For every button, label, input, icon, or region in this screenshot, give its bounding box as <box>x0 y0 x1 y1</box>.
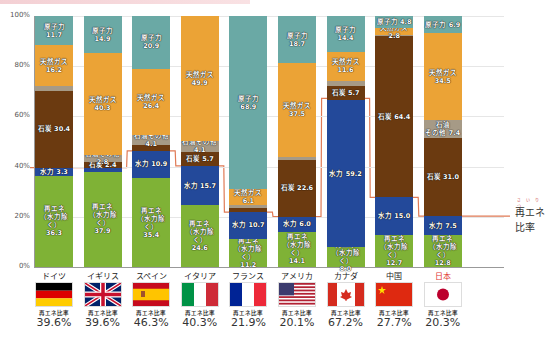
segment-label: 原子力 20.9 <box>132 34 170 50</box>
segment-label: 再エネ （水力除く） 14.1 <box>278 233 316 265</box>
bar-segment: 石油その他 2.8 <box>84 155 122 162</box>
segment-label: 水力 15.7 <box>184 182 216 190</box>
bar-3: 再エネ （水力除く） 24.6水力 15.7石炭 5.7石油その他 4.1天然ガ… <box>181 16 219 267</box>
bar-6: 再エネ （水力除く） 8.0水力 59.2石炭 5.7天然ガス 11.6原子力 … <box>327 16 365 267</box>
segment-label: 再エネ （水力除く） 12.8 <box>424 235 462 267</box>
bar-segment: 水力 7.5 <box>424 216 462 235</box>
segment-label: 原子力 14.4 <box>327 26 365 42</box>
segment-label: 天然ガス 6.1 <box>229 189 267 205</box>
segment-label: 石炭 30.4 <box>38 125 70 133</box>
segment-label: 原子力 11.7 <box>35 23 73 39</box>
segment-label: 水力 10.7 <box>232 221 264 229</box>
segment-label: 再エネ （水力除く） 36.3 <box>35 205 73 237</box>
bar-segment: 水力 10.9 <box>132 151 170 178</box>
segment-label: 水力 7.5 <box>429 222 457 230</box>
flag-china-icon <box>375 282 413 307</box>
bar-segment: 再エネ （水力除く） 36.3 <box>35 176 73 267</box>
segment-label: 再エネ （水力除く） 35.4 <box>132 207 170 239</box>
segment-label: 水力 6.0 <box>283 220 311 228</box>
bar-segment: 再エネ （水力除く） 37.9 <box>84 172 122 267</box>
flag-uk-icon <box>84 282 122 307</box>
bar-segment: 石油その他 4.1 <box>132 135 170 145</box>
segment-label: 石炭 5.7 <box>332 89 360 97</box>
segment-label: 天然ガス 34.5 <box>429 69 457 85</box>
bar-segment: 水力 3.3 <box>35 168 73 176</box>
legend-label-renewable-ratio: 再エネ比率 <box>515 204 545 234</box>
y-tick-label: 100% <box>0 11 30 19</box>
y-tick-label: 20% <box>0 212 30 220</box>
segment-label: 天然ガス 37.5 <box>283 102 311 118</box>
bar-segment: 天然ガス 16.2 <box>35 45 73 86</box>
segment-label: 再エネ （水力除く） 37.9 <box>84 203 122 235</box>
flag-usa-icon <box>278 282 316 307</box>
bar-4: 再エネ （水力除く） 11.2水力 10.7天然ガス 6.1原子力 68.9 <box>229 16 267 267</box>
segment-label: 石油 その他 7.4 <box>425 121 460 137</box>
segment-label: 再エネ （水力除く） 12.7 <box>375 235 413 267</box>
segment-label: 再エネ （水力除く） 11.2 <box>229 237 267 269</box>
segment-label: 再エネ （水力除く） 24.6 <box>181 220 219 252</box>
title-caption-bar <box>0 0 250 4</box>
flag-italy-icon <box>181 282 219 307</box>
y-tick-label: 60% <box>0 111 30 119</box>
bar-segment <box>278 157 316 160</box>
segment-label: 天然ガス 40.3 <box>89 96 117 112</box>
segment-label: 石炭 22.6 <box>281 184 313 192</box>
x-axis <box>34 267 504 268</box>
bar-segment: 水力 15.0 <box>375 197 413 235</box>
flag-japan-icon <box>424 282 462 307</box>
segment-label: 水力 3.3 <box>40 168 68 176</box>
bar-segment: 天然ガス 34.5 <box>424 33 462 120</box>
bar-segment: 原子力 14.9 <box>84 16 122 53</box>
bar-segment: 天然ガス 2.8 <box>375 28 413 35</box>
flag-france-icon <box>229 282 267 307</box>
bar-segment: 石油 その他 7.4 <box>424 120 462 139</box>
segment-label: 水力 15.0 <box>378 212 410 220</box>
flag-canada-icon <box>327 282 365 307</box>
flag-spain-icon <box>132 282 170 307</box>
bar-segment: 再エネ （水力除く） 24.6 <box>181 205 219 267</box>
y-tick-label: 0% <box>0 262 30 270</box>
bar-segment <box>229 205 267 209</box>
segment-label: 水力 10.9 <box>135 160 167 168</box>
bar-segment: 石炭 64.4 <box>375 36 413 198</box>
bar-segment: 再エネ （水力除く） 11.2 <box>229 239 267 267</box>
bar-segment: 石炭 22.6 <box>278 160 316 217</box>
bar-5: 再エネ （水力除く） 14.1水力 6.0石炭 22.6天然ガス 37.5原子力… <box>278 16 316 267</box>
segment-label: 天然ガス 16.2 <box>40 58 68 74</box>
bar-segment: 天然ガス 40.3 <box>84 53 122 154</box>
bar-segment: 再エネ （水力除く） 12.7 <box>375 235 413 267</box>
segment-label: 石炭 31.0 <box>427 173 459 181</box>
renewable-ratio-line <box>0 0 545 337</box>
bar-segment: 天然ガス 6.1 <box>229 189 267 204</box>
bar-segment: 再エネ （水力除く） 8.0 <box>327 247 365 267</box>
bar-segment: 水力 10.7 <box>229 212 267 239</box>
bar-segment: 原子力 11.7 <box>35 16 73 45</box>
bar-segment <box>229 208 267 212</box>
segment-label: 原子力 68.9 <box>229 95 267 111</box>
segment-label: 石炭 5.7 <box>186 155 214 163</box>
bar-segment: 水力 6.0 <box>278 217 316 232</box>
segment-label: 天然ガス 26.4 <box>137 94 165 110</box>
bar-segment: 水力 15.7 <box>181 166 219 205</box>
segment-label: 天然ガス 49.9 <box>186 71 214 87</box>
bar-7: 再エネ （水力除く） 12.7水力 15.0石炭 64.4天然ガス 2.8原子力… <box>375 16 413 267</box>
bar-segment: 原子力 20.9 <box>132 16 170 69</box>
bar-segment: 石炭 5.7 <box>327 86 365 100</box>
bar-segment: 天然ガス 37.5 <box>278 63 316 157</box>
bar-segment: 天然ガス 26.4 <box>132 69 170 135</box>
ratio-value: 20.3% <box>413 316 473 329</box>
segment-label: 原子力 14.9 <box>84 27 122 43</box>
bar-segment <box>35 86 73 91</box>
bar-segment: 天然ガス 11.6 <box>327 52 365 81</box>
bar-segment: 天然ガス 49.9 <box>181 16 219 141</box>
y-tick-label: 40% <box>0 162 30 170</box>
bar-segment: 水力 59.2 <box>327 100 365 247</box>
segment-label: 天然ガス 11.6 <box>332 58 360 74</box>
segment-label: 原子力 6.9 <box>425 21 460 29</box>
bar-segment: 石炭 31.0 <box>424 138 462 216</box>
bar-segment: 再エネ （水力除く） 35.4 <box>132 178 170 267</box>
bar-8: 再エネ （水力除く） 12.8水力 7.5石炭 31.0石油 その他 7.4天然… <box>424 16 462 267</box>
bar-segment: 再エネ （水力除く） 12.8 <box>424 235 462 267</box>
bar-1: 再エネ （水力除く） 37.9石炭 2.4石油その他 2.8天然ガス 40.3原… <box>84 16 122 267</box>
bar-segment: 原子力 68.9 <box>229 16 267 189</box>
